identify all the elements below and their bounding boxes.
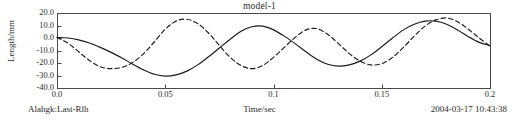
footer-timestamp: 2004-03-17 10:43:38 (431, 104, 507, 115)
footer-left-annotation: Alahgk:Last-Rlh (28, 104, 89, 115)
x-tick-label: 0.1 (268, 90, 278, 99)
x-tick-label: 0.05 (158, 90, 173, 99)
x-tick-label: 0.2 (485, 90, 495, 99)
x-tick-label: 0.0 (52, 90, 62, 99)
chart-figure: model-1 Length/mm 20.010.00.0-10.0-20.0-… (0, 0, 519, 127)
x-tick-label: 0.15 (374, 90, 389, 99)
